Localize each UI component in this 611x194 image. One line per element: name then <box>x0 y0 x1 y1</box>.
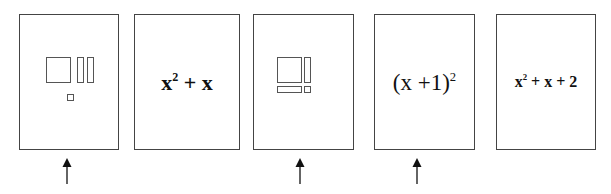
x-squared-tile <box>46 57 71 83</box>
up-arrow-icon <box>412 158 422 184</box>
x-tile-horizontal <box>277 86 302 93</box>
x-tile-vertical <box>304 57 311 83</box>
up-arrow-icon <box>62 158 72 184</box>
expression-card-5: x2 + x + 2 <box>497 73 595 91</box>
x-squared-tile <box>277 57 302 83</box>
x-tile-2 <box>87 57 94 83</box>
expression-card-4: (x +1)2 <box>375 70 474 96</box>
expression-card-2: x2 + x <box>135 70 239 96</box>
card-3 <box>253 14 354 150</box>
x-tile-1 <box>77 57 84 83</box>
card-1 <box>19 14 119 150</box>
up-arrow-icon <box>295 158 305 184</box>
card-5: x2 + x + 2 <box>496 14 596 150</box>
unit-tile <box>304 86 311 93</box>
card-2: x2 + x <box>134 14 240 150</box>
unit-tile <box>67 94 74 101</box>
card-4: (x +1)2 <box>374 14 475 150</box>
